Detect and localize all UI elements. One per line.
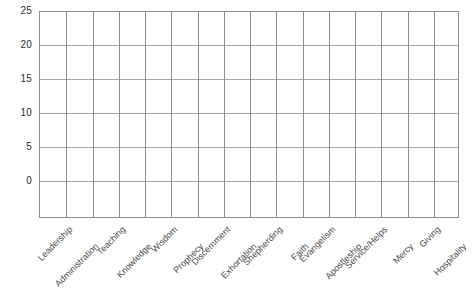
- gridline-horizontal: [40, 79, 458, 80]
- gridline-vertical: [355, 12, 356, 217]
- gridline-vertical: [276, 12, 277, 217]
- gridline-vertical: [171, 12, 172, 217]
- y-tick-label: 15: [20, 74, 32, 84]
- gridline-vertical: [145, 12, 146, 217]
- y-tick-label: 0: [26, 176, 32, 186]
- gridline-vertical: [224, 12, 225, 217]
- y-tick-label: 25: [20, 6, 32, 16]
- gridline-vertical: [303, 12, 304, 217]
- gridline-vertical: [66, 12, 67, 217]
- chart-container: 0510152025 LeadershipAdministrationTeach…: [0, 0, 473, 308]
- gridline-horizontal: [40, 45, 458, 46]
- plot-area: [39, 11, 459, 218]
- gridline-vertical: [381, 12, 382, 217]
- gridline-vertical: [250, 12, 251, 217]
- y-tick-label: 10: [20, 108, 32, 118]
- x-tick-label: Giving: [351, 225, 442, 308]
- gridline-horizontal: [40, 147, 458, 148]
- gridline-vertical: [93, 12, 94, 217]
- gridline-horizontal: [40, 113, 458, 114]
- y-tick-label: 5: [26, 142, 32, 152]
- gridline-vertical: [329, 12, 330, 217]
- gridline-vertical: [434, 12, 435, 217]
- gridline-vertical: [198, 12, 199, 217]
- gridline-vertical: [119, 12, 120, 217]
- gridline-horizontal: [40, 181, 458, 182]
- gridline-vertical: [408, 12, 409, 217]
- y-tick-label: 20: [20, 40, 32, 50]
